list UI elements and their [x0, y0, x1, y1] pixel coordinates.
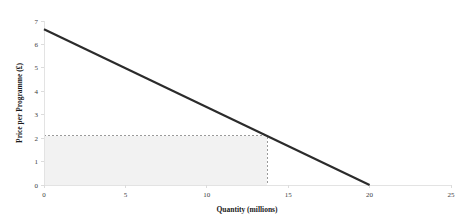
- chart-canvas: 0510152025 01234567 Quantity (millions) …: [0, 0, 475, 219]
- x-tick-label: 10: [203, 191, 211, 199]
- y-axis-tick-labels: 01234567: [35, 18, 39, 190]
- x-axis-title: Quantity (millions): [216, 205, 278, 214]
- demand-curve-chart: 0510152025 01234567 Quantity (millions) …: [0, 0, 475, 219]
- y-tick-label: 2: [35, 135, 39, 143]
- y-tick-label: 1: [35, 158, 39, 166]
- x-tick-label: 25: [448, 191, 456, 199]
- x-axis-tick-labels: 0510152025: [42, 191, 455, 199]
- y-tick-label: 6: [35, 41, 39, 49]
- x-tick-label: 15: [285, 191, 293, 199]
- y-tick-label: 5: [35, 64, 39, 72]
- y-tick-label: 7: [35, 18, 39, 26]
- x-tick-label: 20: [366, 191, 374, 199]
- y-tick-label: 4: [35, 88, 39, 96]
- revenue-rectangle: [44, 136, 267, 185]
- x-tick-label: 5: [124, 191, 128, 199]
- y-axis-title: Price per Programme (£): [15, 63, 24, 143]
- y-tick-label: 3: [35, 111, 39, 119]
- x-tick-label: 0: [42, 191, 46, 199]
- y-tick-label: 0: [35, 182, 39, 190]
